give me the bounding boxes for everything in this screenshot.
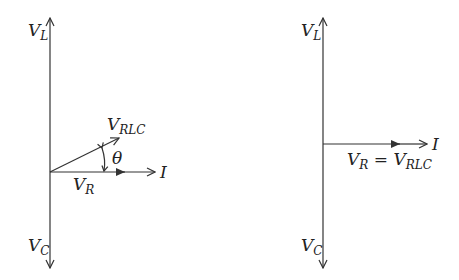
- left-diagram: VL VC VRLC VR θ I: [28, 18, 167, 268]
- vl-label-right: VL: [301, 20, 321, 43]
- current-label-right: I: [431, 134, 439, 154]
- vl-label: VL: [28, 20, 48, 43]
- phasor-diagrams: VL VC VRLC VR θ I VL VC VR = VRLC I: [0, 0, 459, 280]
- theta-arc: [102, 148, 105, 171]
- theta-label: θ: [112, 148, 122, 168]
- vc-label-right: VC: [301, 235, 322, 258]
- vrlc-phasor: [50, 138, 119, 172]
- vrlc-label: VRLC: [107, 114, 145, 137]
- vr-label: VR: [73, 174, 94, 197]
- vr-equals-vrlc-label: VR = VRLC: [347, 149, 432, 172]
- vc-label: VC: [28, 235, 49, 258]
- right-diagram: VL VC VR = VRLC I: [301, 18, 439, 268]
- current-label: I: [159, 162, 167, 182]
